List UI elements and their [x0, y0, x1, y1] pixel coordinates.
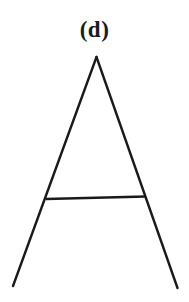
- left-leg-line: [13, 57, 97, 286]
- right-leg-line: [97, 57, 178, 288]
- crossbar-line: [46, 197, 146, 200]
- figure-panel: (d): [0, 0, 189, 302]
- letter-a-triangle-drawing: [0, 0, 189, 302]
